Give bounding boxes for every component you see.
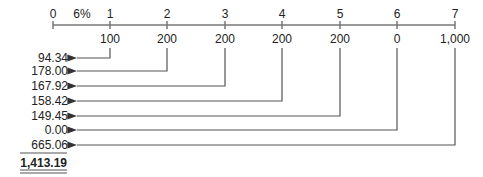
- cash-flow-label: 200: [330, 33, 350, 45]
- cash-flow-label: 200: [157, 33, 177, 45]
- period-label: 0: [50, 8, 57, 20]
- discount-arrows: [77, 48, 455, 145]
- cash-flow-label: 1,000: [440, 33, 470, 45]
- present-value: 665.06: [8, 139, 68, 151]
- period-label: 5: [337, 8, 344, 20]
- present-value: 94.34: [8, 52, 68, 64]
- cash-flow-label: 100: [100, 33, 120, 45]
- present-value: 167.92: [8, 80, 68, 92]
- present-value: 149.45: [8, 110, 68, 122]
- present-value: 158.42: [8, 95, 68, 107]
- interest-rate-label: 6%: [73, 8, 90, 20]
- period-label: 2: [164, 8, 171, 20]
- period-label: 6: [394, 8, 401, 20]
- period-label: 7: [452, 8, 459, 20]
- period-label: 3: [222, 8, 229, 20]
- time-axis: [53, 21, 455, 29]
- cash-flow-label: 200: [272, 33, 292, 45]
- period-label: 4: [279, 8, 286, 20]
- total-present-value: 1,413.19: [7, 157, 67, 169]
- present-value: 0.00: [8, 124, 68, 136]
- timeline-diagram: [0, 0, 483, 177]
- period-label: 1: [107, 8, 114, 20]
- cash-flow-label: 0: [394, 33, 401, 45]
- present-value: 178.00: [8, 65, 68, 77]
- cash-flow-label: 200: [215, 33, 235, 45]
